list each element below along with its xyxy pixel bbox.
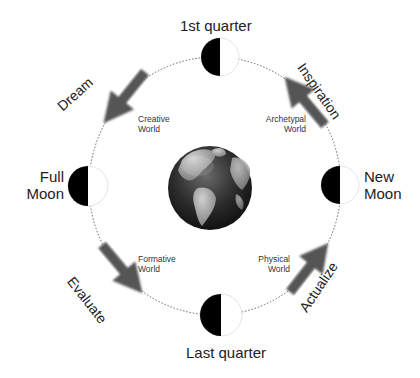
- label-new-moon-line2: Moon: [364, 185, 402, 202]
- label-new-moon: New Moon: [364, 168, 402, 202]
- moon-cycle-diagram: 1st quarter Full Moon New Moon Last quar…: [0, 0, 420, 378]
- globe-icon: [168, 146, 252, 230]
- label-1st-quarter: 1st quarter: [180, 17, 252, 34]
- label-formative-world-line1: Formative: [138, 254, 176, 264]
- label-physical-world-line1: Physical: [258, 254, 290, 264]
- label-physical-world: Physical World: [258, 254, 290, 274]
- label-creative-world-line2: World: [138, 124, 170, 134]
- label-physical-world-line2: World: [258, 264, 290, 274]
- moon-1st-quarter-icon: [201, 38, 239, 76]
- label-full-moon-line1: Full: [22, 168, 64, 185]
- label-archetypal-world: Archetypal World: [262, 114, 306, 134]
- label-archetypal-world-line2: World: [262, 124, 306, 134]
- moon-new-icon: [321, 166, 359, 204]
- label-last-quarter: Last quarter: [186, 344, 266, 361]
- label-archetypal-world-line1: Archetypal: [262, 114, 306, 124]
- label-new-moon-line1: New: [364, 168, 402, 185]
- label-creative-world-line1: Creative: [138, 114, 170, 124]
- label-creative-world: Creative World: [138, 114, 170, 134]
- label-full-moon: Full Moon: [22, 168, 64, 202]
- moon-full-icon: [68, 166, 108, 206]
- label-formative-world-line2: World: [138, 264, 176, 274]
- label-formative-world: Formative World: [138, 254, 176, 274]
- moon-last-quarter-icon: [200, 294, 242, 336]
- label-full-moon-line2: Moon: [22, 185, 64, 202]
